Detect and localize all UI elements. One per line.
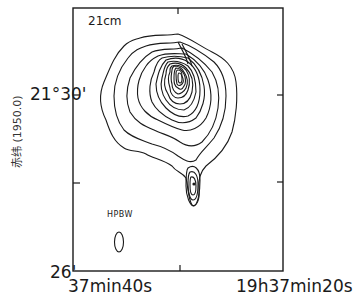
x-tick-label-right: 19h37min20s [236, 276, 353, 296]
plot-frame [73, 8, 283, 271]
y-tick-label-top: 21°30' [30, 84, 86, 104]
hpbw-label: HPBW [107, 210, 133, 219]
beam-ellipse [115, 232, 124, 252]
y-axis-label: 赤纬 (1950.0) [8, 95, 24, 168]
secondary-peak-dot [192, 182, 195, 185]
contours [100, 34, 236, 206]
x-tick-label-left: 37min40s [68, 276, 152, 296]
band-label: 21cm [88, 14, 122, 28]
